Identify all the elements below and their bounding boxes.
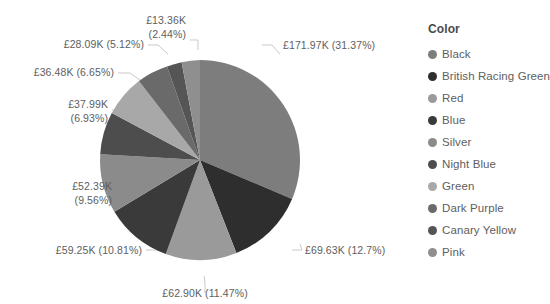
- legend-item[interactable]: Green: [428, 175, 544, 197]
- legend-item[interactable]: Black: [428, 43, 544, 65]
- leader-line-green: [118, 73, 140, 80]
- slice-label-canary-yellow-value: £13.36K: [118, 14, 186, 28]
- slice-label-silver-percent: (9.56%): [24, 194, 112, 208]
- slice-label-silver-value: £52.39K: [24, 180, 112, 194]
- slice-label-blue: £59.25K (10.81%): [16, 244, 142, 257]
- pie-slices: [100, 60, 300, 260]
- legend-item[interactable]: Dark Purple: [428, 197, 544, 219]
- slice-label-night-blue-value: £37.99K: [20, 98, 108, 112]
- legend-item[interactable]: Blue: [428, 109, 544, 131]
- leader-line-black: [262, 45, 280, 54]
- legend-items: BlackBritish Racing GreenRedBlueSilverNi…: [428, 43, 544, 263]
- legend-swatch-icon: [428, 94, 437, 103]
- leader-line-british-racing-green: [292, 244, 302, 250]
- legend-item-label: Green: [442, 180, 474, 192]
- slice-label-green: £36.48K (6.65%): [0, 66, 114, 79]
- legend-swatch-icon: [428, 248, 437, 257]
- legend-item-label: Blue: [442, 114, 465, 126]
- legend-swatch-icon: [428, 116, 437, 125]
- legend-swatch-icon: [428, 182, 437, 191]
- slice-label-silver: £52.39K (9.56%): [24, 180, 112, 207]
- slice-label-red: £62.90K (11.47%): [145, 287, 265, 300]
- leader-line-dark-purple: [148, 45, 168, 54]
- legend-item[interactable]: Red: [428, 87, 544, 109]
- legend-item[interactable]: Night Blue: [428, 153, 544, 175]
- legend-item-label: Black: [442, 48, 471, 60]
- legend-swatch-icon: [428, 226, 437, 235]
- legend-title: Color: [428, 22, 544, 36]
- legend-item-label: Silver: [442, 136, 471, 148]
- legend-swatch-icon: [428, 72, 437, 81]
- slice-label-night-blue: £37.99K (6.93%): [20, 98, 108, 125]
- slice-label-canary-yellow: £13.36K (2.44%): [118, 14, 186, 41]
- legend-item-label: Canary Yellow: [442, 224, 516, 236]
- legend-item-label: Red: [442, 92, 463, 104]
- legend-item[interactable]: British Racing Green: [428, 65, 544, 87]
- slice-label-canary-yellow-percent: (2.44%): [118, 28, 186, 42]
- leader-line-canary-yellow: [190, 40, 198, 50]
- legend-swatch-icon: [428, 138, 437, 147]
- legend: Color BlackBritish Racing GreenRedBlueSi…: [428, 22, 544, 263]
- legend-swatch-icon: [428, 50, 437, 59]
- legend-item[interactable]: Canary Yellow: [428, 219, 544, 241]
- slice-label-british-racing-green: £69.63K (12.7%): [305, 244, 385, 257]
- legend-item[interactable]: Silver: [428, 131, 544, 153]
- legend-item[interactable]: Pink: [428, 241, 544, 263]
- slice-label-black: £171.97K (31.37%): [283, 39, 375, 52]
- pie-chart-area: £171.97K (31.37%) £69.63K (12.7%) £62.90…: [0, 0, 420, 304]
- legend-item-label: British Racing Green: [442, 70, 550, 82]
- legend-item-label: Pink: [442, 246, 465, 258]
- legend-item-label: Dark Purple: [442, 202, 504, 214]
- legend-swatch-icon: [428, 204, 437, 213]
- legend-swatch-icon: [428, 160, 437, 169]
- legend-item-label: Night Blue: [442, 158, 496, 170]
- slice-label-night-blue-percent: (6.93%): [20, 112, 108, 126]
